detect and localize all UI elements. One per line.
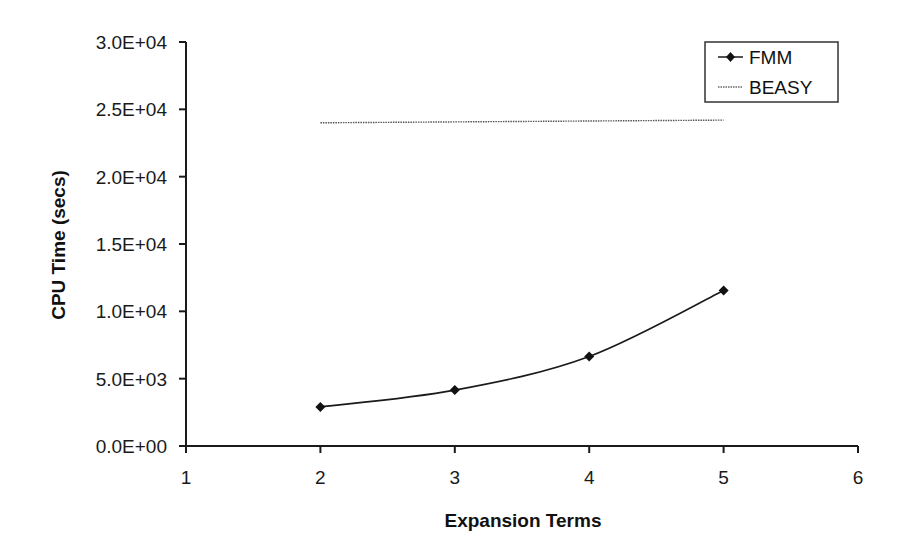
diamond-marker-icon xyxy=(584,351,594,361)
legend-label-fmm: FMM xyxy=(749,47,792,68)
y-tick-label: 2.5E+04 xyxy=(96,99,168,120)
x-axis-title: Expansion Terms xyxy=(445,510,602,531)
legend: FMM BEASY xyxy=(705,42,838,102)
y-axis-title: CPU Time (secs) xyxy=(48,170,69,320)
x-axis: 123456 xyxy=(181,446,864,488)
legend-label-beasy: BEASY xyxy=(749,77,813,98)
x-tick-label: 3 xyxy=(450,467,461,488)
x-tick-label: 4 xyxy=(584,467,595,488)
series-line-fmm xyxy=(320,290,723,406)
x-tick-label: 6 xyxy=(853,467,864,488)
x-tick-label: 2 xyxy=(315,467,326,488)
diamond-marker-icon xyxy=(719,285,729,295)
y-tick-label: 0.0E+00 xyxy=(96,436,167,457)
x-tick-label: 5 xyxy=(718,467,729,488)
diamond-marker-icon xyxy=(315,402,325,412)
y-tick-label: 2.0E+04 xyxy=(96,167,168,188)
y-tick-label: 1.5E+04 xyxy=(96,234,168,255)
series-line-beasy xyxy=(320,120,723,123)
y-tick-label: 5.0E+03 xyxy=(96,369,167,390)
plot-area xyxy=(315,120,728,412)
y-tick-label: 3.0E+04 xyxy=(96,32,168,53)
x-tick-label: 1 xyxy=(181,467,192,488)
diamond-marker-icon xyxy=(450,385,460,395)
chart: 0.0E+005.0E+031.0E+041.5E+042.0E+042.5E+… xyxy=(0,0,903,550)
y-axis: 0.0E+005.0E+031.0E+041.5E+042.0E+042.5E+… xyxy=(96,32,186,457)
y-tick-label: 1.0E+04 xyxy=(96,301,168,322)
